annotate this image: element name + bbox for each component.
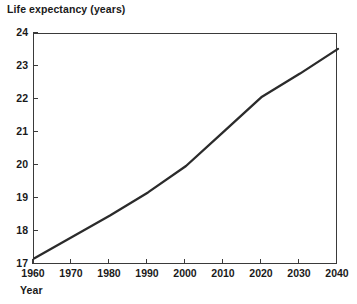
y-tick-19 <box>33 197 38 198</box>
y-tick-17 <box>33 263 38 264</box>
x-tick-2040 <box>336 259 337 264</box>
x-tick-2030 <box>298 259 299 264</box>
x-tick-1980 <box>108 259 109 264</box>
y-tick-label-18: 18 <box>4 225 28 236</box>
x-tick-2010 <box>222 259 223 264</box>
x-tick-label-2020: 2020 <box>241 268 281 279</box>
life-expectancy-line <box>34 49 338 259</box>
y-tick-23 <box>33 65 38 66</box>
x-tick-label-2010: 2010 <box>203 268 243 279</box>
y-tick-label-23: 23 <box>4 60 28 71</box>
y-tick-label-22: 22 <box>4 93 28 104</box>
y-tick-22 <box>33 98 38 99</box>
y-tick-20 <box>33 164 38 165</box>
x-tick-label-1980: 1980 <box>89 268 129 279</box>
x-axis-title: Year <box>20 284 43 296</box>
x-tick-2020 <box>260 259 261 264</box>
line-chart-figure: Life expectancy (years) 1718192021222324… <box>0 0 357 304</box>
x-tick-label-2040: 2040 <box>317 268 357 279</box>
y-tick-label-19: 19 <box>4 192 28 203</box>
data-series-layer <box>34 34 338 265</box>
y-tick-label-21: 21 <box>4 126 28 137</box>
x-tick-label-2030: 2030 <box>279 268 319 279</box>
x-tick-label-1960: 1960 <box>13 268 53 279</box>
x-tick-label-1990: 1990 <box>127 268 167 279</box>
y-axis-title: Life expectancy (years) <box>7 3 125 15</box>
x-tick-1960 <box>32 259 33 264</box>
y-tick-18 <box>33 230 38 231</box>
y-tick-label-24: 24 <box>4 27 28 38</box>
y-tick-label-20: 20 <box>4 159 28 170</box>
x-tick-label-2000: 2000 <box>165 268 205 279</box>
x-tick-2000 <box>184 259 185 264</box>
plot-area <box>33 33 337 264</box>
x-tick-label-1970: 1970 <box>51 268 91 279</box>
x-tick-1990 <box>146 259 147 264</box>
x-tick-1970 <box>70 259 71 264</box>
y-tick-21 <box>33 131 38 132</box>
y-tick-24 <box>33 32 38 33</box>
